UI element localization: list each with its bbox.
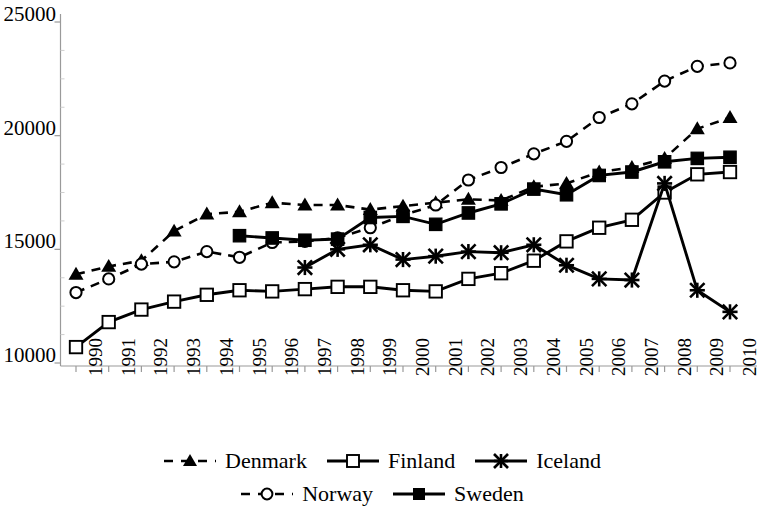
marker-open-square: [201, 289, 213, 301]
legend-item-iceland[interactable]: Iceland: [473, 448, 601, 474]
marker-filled-square: [266, 232, 278, 244]
marker-filled-triangle: [167, 224, 182, 237]
marker-asterisk: [428, 249, 443, 264]
marker-asterisk: [494, 245, 509, 260]
marker-filled-square: [724, 151, 736, 163]
marker-filled-square: [397, 210, 409, 222]
marker-asterisk: [657, 176, 672, 191]
marker-filled-triangle: [265, 195, 280, 208]
marker-open-square: [462, 273, 474, 285]
marker-open-circle: [70, 287, 81, 298]
marker-open-square: [135, 303, 147, 315]
marker-filled-square: [593, 169, 605, 181]
marker-asterisk: [690, 283, 705, 298]
legend-item-finland[interactable]: Finland: [325, 448, 455, 474]
marker-open-circle: [659, 76, 670, 87]
marker-open-square: [364, 281, 376, 293]
marker-open-square: [528, 255, 540, 267]
marker-open-square: [593, 222, 605, 234]
marker-filled-square: [462, 207, 474, 219]
marker-filled-triangle: [199, 207, 214, 220]
marker-filled-square: [364, 211, 376, 223]
marker-open-square: [397, 284, 409, 296]
marker-open-square: [724, 166, 736, 178]
marker-open-circle: [496, 162, 507, 173]
marker-open-square: [430, 285, 442, 297]
marker-filled-square: [658, 156, 670, 168]
marker-open-circle: [692, 61, 703, 72]
legend-key-dashed-filled-triangle: [162, 451, 218, 471]
marker-open-square: [233, 284, 245, 296]
marker-asterisk: [526, 237, 541, 252]
legend-key-solid-asterisk: [473, 451, 529, 471]
marker-open-circle: [136, 259, 147, 270]
marker-asterisk: [395, 252, 410, 267]
legend-key-solid-open-square: [325, 451, 381, 471]
marker-open-square: [70, 341, 82, 353]
x-axis-tick-label: 1991: [118, 338, 140, 376]
marker-open-circle: [169, 256, 180, 267]
x-axis-tick-label: 2008: [674, 338, 696, 376]
marker-open-circle: [594, 112, 605, 123]
marker-open-circle: [234, 252, 245, 263]
x-axis-tick-label: 1992: [150, 338, 172, 376]
legend-key-dashed-open-circle: [239, 484, 295, 504]
chart-canvas: [0, 0, 763, 511]
x-axis-tick-label: 1999: [379, 338, 401, 376]
marker-asterisk: [363, 237, 378, 252]
legend-item-norway[interactable]: Norway: [239, 481, 373, 507]
x-axis-tick-label: 2009: [706, 338, 728, 376]
marker-open-circle: [201, 246, 212, 257]
marker-open-square: [266, 285, 278, 297]
marker-asterisk: [624, 272, 639, 287]
legend-row: DenmarkFinlandIceland: [0, 444, 763, 477]
x-axis-tick-label: 1990: [85, 338, 107, 376]
marker-asterisk: [461, 244, 476, 259]
x-axis-tick-label: 2004: [543, 338, 565, 376]
legend-label: Finland: [388, 448, 455, 474]
marker-open-circle: [528, 148, 539, 159]
marker-open-square: [103, 316, 115, 328]
x-axis-tick-label: 1995: [249, 338, 271, 376]
marker-asterisk: [722, 304, 737, 319]
marker-open-circle: [430, 199, 441, 210]
marker-filled-square: [495, 198, 507, 210]
legend-item-denmark[interactable]: Denmark: [162, 448, 307, 474]
legend-item-sweden[interactable]: Sweden: [391, 481, 524, 507]
marker-open-circle: [626, 98, 637, 109]
marker-open-square: [168, 295, 180, 307]
marker-filled-triangle: [232, 204, 247, 217]
legend-key-solid-filled-square: [391, 484, 447, 504]
legend-label: Denmark: [225, 448, 307, 474]
x-axis-tick-label: 2001: [445, 338, 467, 376]
x-axis-tick-label: 2000: [412, 338, 434, 376]
chart-root: 25000200001500010000 DenmarkFinlandIcela…: [0, 0, 763, 511]
marker-filled-square: [691, 152, 703, 164]
marker-open-square: [299, 283, 311, 295]
marker-filled-square: [528, 183, 540, 195]
marker-filled-square: [560, 189, 572, 201]
legend-label: Iceland: [536, 448, 601, 474]
x-axis-tick-label: 2006: [608, 338, 630, 376]
marker-filled-square: [626, 166, 638, 178]
x-axis-tick-label: 1994: [216, 338, 238, 376]
marker-asterisk: [297, 260, 312, 275]
marker-open-square: [331, 281, 343, 293]
marker-open-circle: [561, 136, 572, 147]
x-axis-tick-label: 1997: [314, 338, 336, 376]
marker-filled-square: [233, 229, 245, 241]
x-axis-tick-label: 1996: [281, 338, 303, 376]
marker-open-square: [626, 214, 638, 226]
marker-asterisk: [592, 271, 607, 286]
marker-filled-square: [299, 234, 311, 246]
marker-open-circle: [724, 57, 735, 68]
marker-filled-triangle: [723, 110, 738, 123]
marker-asterisk: [559, 258, 574, 273]
x-axis-tick-label: 2002: [477, 338, 499, 376]
legend-label: Norway: [302, 481, 373, 507]
marker-open-square: [495, 267, 507, 279]
legend-row: NorwaySweden: [0, 477, 763, 510]
legend-label: Sweden: [454, 481, 524, 507]
x-axis-tick-label: 2005: [576, 338, 598, 376]
marker-filled-square: [331, 233, 343, 245]
